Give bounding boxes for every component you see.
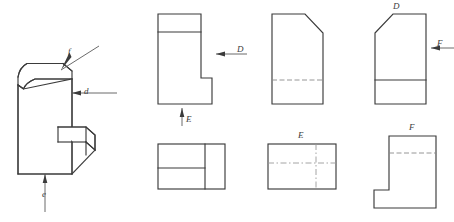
label-view-3-F: F	[437, 39, 443, 48]
label-iso-d: d	[84, 87, 89, 96]
label-iso-e: e	[42, 190, 46, 199]
isometric-solid	[18, 46, 117, 212]
view-1-arrow-E	[180, 108, 185, 126]
label-view-5-E: E	[298, 131, 304, 140]
iso-leader-f	[61, 46, 99, 70]
view-4-divided-rectangle	[158, 144, 225, 189]
iso-leader-d	[72, 91, 117, 96]
view-6-notched-rectangle	[374, 136, 436, 208]
label-view-3-D: D	[393, 2, 400, 11]
view-1-l-profile	[158, 14, 247, 126]
view-5-outline	[268, 144, 336, 189]
view-6-outline	[374, 136, 436, 208]
label-iso-f: f	[68, 47, 71, 56]
technical-drawing-canvas	[0, 0, 454, 222]
view-1-outline	[158, 14, 212, 104]
drawing-sheet: f d e D E D F E F	[0, 0, 454, 222]
view-5-center-lined-rectangle	[268, 144, 336, 189]
label-view-6-F: F	[409, 123, 415, 132]
view-3-chamfered-mirrored	[375, 14, 454, 104]
view-2-outline	[272, 14, 323, 104]
label-view-1-D: D	[237, 45, 244, 54]
view-3-outline	[375, 14, 426, 104]
view-2-chamfered	[272, 14, 323, 104]
iso-foot-bottom-slant	[72, 150, 95, 174]
view-4-outline	[158, 144, 225, 189]
label-view-1-E: E	[186, 115, 192, 124]
